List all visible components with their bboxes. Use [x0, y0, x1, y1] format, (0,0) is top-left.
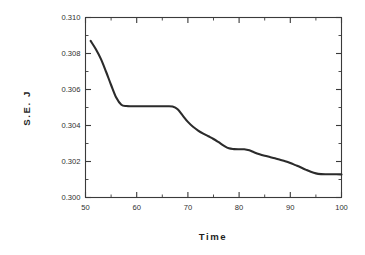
x-tick-label: 90: [286, 203, 294, 212]
y-tick-label: 0.300: [61, 193, 80, 202]
y-tick-label: 0.306: [61, 85, 80, 94]
y-axis-title: S.E. J: [21, 90, 32, 126]
x-tick-label: 100: [335, 203, 348, 212]
x-tick-label: 70: [184, 203, 192, 212]
x-axis-title: Time: [199, 231, 228, 242]
x-tick-label: 50: [81, 203, 89, 212]
line-chart: 0.3000.3020.3040.3060.3080.310 506070809…: [0, 0, 365, 255]
y-tick-label: 0.302: [61, 157, 80, 166]
chart-figure: 0.3000.3020.3040.3060.3080.310 506070809…: [0, 0, 365, 255]
x-tick-label: 80: [235, 203, 243, 212]
chart-background: [0, 0, 365, 255]
y-tick-label: 0.304: [61, 121, 80, 130]
x-tick-label: 60: [132, 203, 140, 212]
y-tick-label: 0.310: [61, 13, 80, 22]
y-tick-label: 0.308: [61, 49, 80, 58]
